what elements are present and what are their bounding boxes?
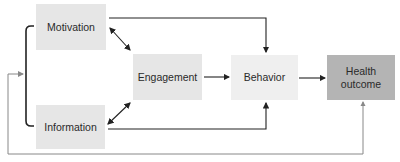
edge-information-behavior (108, 103, 266, 129)
node-label: Engagement (138, 71, 198, 84)
node-label: Motivation (47, 21, 95, 34)
group-bracket (26, 26, 34, 126)
node-behavior: Behavior (231, 55, 298, 100)
node-label: Health outcome (341, 65, 381, 90)
feedback-arrow-up (361, 101, 366, 106)
edge-information-engagement (108, 103, 130, 124)
node-motivation: Motivation (36, 4, 106, 50)
edge-motivation-engagement (110, 28, 130, 50)
node-label: Information (44, 121, 97, 134)
node-health-outcome: Health outcome (327, 55, 395, 100)
node-information: Information (36, 105, 105, 149)
node-engagement: Engagement (133, 54, 202, 100)
edge-motivation-behavior (109, 18, 266, 52)
node-label: Behavior (244, 71, 285, 84)
